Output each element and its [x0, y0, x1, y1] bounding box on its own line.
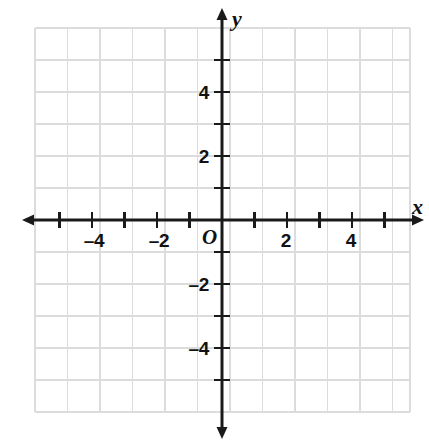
y-tick-label-neg4: –4 — [188, 339, 209, 358]
x-tick-label-4: 4 — [346, 231, 356, 250]
x-tick-label-neg4: –4 — [84, 231, 105, 250]
x-axis-name-label: x — [412, 196, 423, 218]
y-axis-name-label: y — [232, 8, 242, 30]
coordinate-grid-svg — [0, 0, 429, 444]
y-axis — [217, 8, 228, 439]
x-tick-label-2: 2 — [281, 231, 291, 250]
y-axis-arrow-up — [217, 8, 228, 20]
y-tick-label-neg2: –2 — [188, 275, 209, 294]
y-tick-label-2: 2 — [199, 147, 209, 166]
x-tick-label-neg2: –2 — [149, 231, 170, 250]
coordinate-plane-figure: –4 –2 2 4 4 2 –2 –4 O y x — [0, 0, 429, 444]
y-tick-label-4: 4 — [199, 83, 209, 102]
x-axis-arrow-left — [22, 215, 34, 226]
origin-label: O — [202, 227, 217, 248]
y-axis-arrow-down — [217, 427, 228, 439]
